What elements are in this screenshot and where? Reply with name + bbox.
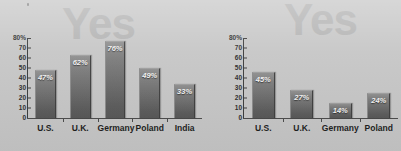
left-bars-container: 47%62%76%49%33% <box>28 38 202 118</box>
left-y-tick-mark <box>27 78 31 79</box>
bar-slot: 24% <box>367 38 390 118</box>
right-y-tick-mark <box>243 58 247 59</box>
right-y-tick-label: 50 <box>235 65 242 72</box>
bar-value-label: 62% <box>71 59 90 67</box>
left-y-tick-label: 80% <box>13 35 26 42</box>
left-y-tick-label: 0 <box>22 115 26 122</box>
x-axis-separator-tick <box>360 119 361 122</box>
bar-slot: 49% <box>139 38 160 118</box>
watermark-text-right: Yes <box>284 0 357 42</box>
bar-germany[interactable]: 76% <box>105 41 126 118</box>
category-label-u-k: U.K. <box>63 124 98 133</box>
x-axis-separator-tick <box>283 119 284 122</box>
scan-artifact-speck <box>27 3 29 6</box>
x-axis-separator-tick <box>321 119 322 122</box>
right-category-labels: U.S.U.K.GermanyPoland <box>244 124 398 140</box>
right-y-tick-mark <box>243 98 247 99</box>
right-y-tick-label: 20 <box>235 95 242 102</box>
right-bar-chart: Yes 80%706050403020100 45%27%14%24% U.S.… <box>212 0 401 151</box>
bar-poland[interactable]: 24% <box>367 93 390 118</box>
bar-slot: 47% <box>35 38 56 118</box>
bar-slot: 62% <box>70 38 91 118</box>
category-label-u-s: U.S. <box>244 124 283 133</box>
left-y-tick-mark <box>27 108 31 109</box>
bar-value-label: 47% <box>36 74 55 82</box>
left-y-tick-mark <box>27 98 31 99</box>
x-axis-separator-tick <box>98 119 99 122</box>
right-y-tick-label: 30 <box>235 85 242 92</box>
bar-value-label: 49% <box>140 72 159 80</box>
category-label-germany: Germany <box>98 124 133 133</box>
bar-slot: 33% <box>174 38 195 118</box>
bar-slot: 76% <box>105 38 126 118</box>
left-category-labels: U.S.U.K.GermanyPolandIndia <box>28 124 202 140</box>
left-plot-area: 80%706050403020100 47%62%76%49%33% U.S.U… <box>4 38 202 130</box>
left-y-tick-label: 10 <box>19 105 26 112</box>
bar-u-s[interactable]: 47% <box>35 70 56 118</box>
category-label-poland: Poland <box>132 124 167 133</box>
bar-slot: 14% <box>329 38 352 118</box>
right-plot-area: 80%706050403020100 45%27%14%24% U.S.U.K.… <box>220 38 398 130</box>
left-y-tick-label: 70 <box>19 45 26 52</box>
x-axis-separator-tick <box>167 119 168 122</box>
bar-value-label: 24% <box>368 97 389 105</box>
right-y-tick-label: 60 <box>235 55 242 62</box>
right-y-tick-mark <box>243 48 247 49</box>
bar-india[interactable]: 33% <box>174 84 195 118</box>
right-y-tick-mark <box>243 88 247 89</box>
left-y-tick-label: 30 <box>19 85 26 92</box>
left-y-tick-label: 40 <box>19 75 26 82</box>
bar-u-s[interactable]: 45% <box>252 72 275 118</box>
bar-u-k[interactable]: 27% <box>290 90 313 118</box>
category-label-india: India <box>167 124 202 133</box>
right-bars-container: 45%27%14%24% <box>244 38 398 118</box>
category-label-u-s: U.S. <box>28 124 63 133</box>
bar-value-label: 33% <box>175 88 194 96</box>
right-y-axis-labels: 80%706050403020100 <box>220 38 242 118</box>
bar-value-label: 27% <box>291 94 312 102</box>
right-y-tick-label: 0 <box>238 115 242 122</box>
right-y-tick-mark <box>243 78 247 79</box>
bar-value-label: 14% <box>330 107 351 115</box>
category-label-u-k: U.K. <box>283 124 322 133</box>
bar-u-k[interactable]: 62% <box>70 55 91 118</box>
category-label-germany: Germany <box>321 124 360 133</box>
bar-value-label: 45% <box>253 76 274 84</box>
left-y-tick-mark <box>27 48 31 49</box>
left-x-axis-baseline <box>27 118 202 119</box>
chart-screenshot: Yes 80%706050403020100 47%62%76%49%33% U… <box>0 0 401 151</box>
left-bar-chart: Yes 80%706050403020100 47%62%76%49%33% U… <box>0 0 206 151</box>
right-y-tick-mark <box>243 68 247 69</box>
bar-poland[interactable]: 49% <box>139 68 160 118</box>
right-y-tick-mark <box>243 108 247 109</box>
left-y-tick-label: 50 <box>19 65 26 72</box>
category-label-poland: Poland <box>360 124 399 133</box>
right-y-tick-label: 40 <box>235 75 242 82</box>
left-y-tick-mark <box>27 68 31 69</box>
left-y-tick-label: 60 <box>19 55 26 62</box>
x-axis-separator-tick <box>63 119 64 122</box>
x-axis-separator-tick <box>132 119 133 122</box>
left-y-tick-mark <box>27 88 31 89</box>
bar-slot: 45% <box>252 38 275 118</box>
bar-germany[interactable]: 14% <box>329 103 352 118</box>
right-y-tick-label: 10 <box>235 105 242 112</box>
bar-value-label: 76% <box>106 45 125 53</box>
left-y-axis-labels: 80%706050403020100 <box>4 38 26 118</box>
left-y-tick-label: 20 <box>19 95 26 102</box>
right-y-tick-label: 70 <box>235 45 242 52</box>
right-y-tick-label: 80% <box>229 35 242 42</box>
left-y-tick-mark <box>27 58 31 59</box>
bar-slot: 27% <box>290 38 313 118</box>
